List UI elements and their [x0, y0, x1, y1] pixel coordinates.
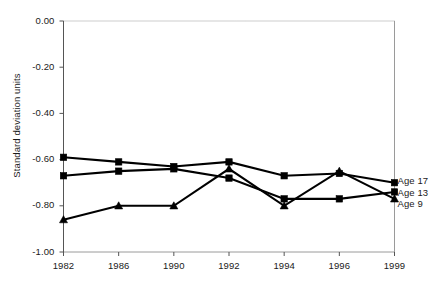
- y-tick-label: -0.20: [17, 61, 55, 72]
- data-point: [60, 173, 66, 179]
- series-label-age-9: Age 9: [398, 198, 423, 209]
- x-tick-label: 1986: [96, 260, 142, 271]
- data-point: [225, 165, 233, 172]
- x-tick-label: 1982: [41, 260, 87, 271]
- x-tick-label: 1990: [151, 260, 197, 271]
- data-point: [336, 196, 342, 202]
- y-tick-label: -0.40: [17, 107, 55, 118]
- data-point: [115, 159, 121, 165]
- series-label-age-17: Age 17: [398, 175, 429, 186]
- y-tick-label: 0.00: [17, 15, 55, 26]
- data-point: [281, 196, 287, 202]
- y-tick-label: -1.00: [17, 246, 55, 257]
- chart-container: Standard deviation units 0.00-0.20-0.40-…: [0, 0, 441, 292]
- data-series-group: [60, 154, 399, 223]
- y-tick-label: -0.80: [17, 199, 55, 210]
- data-point: [115, 168, 121, 174]
- data-point: [226, 159, 232, 165]
- series-age-9: [60, 165, 399, 223]
- y-tick-label: -0.60: [17, 153, 55, 164]
- data-point: [60, 154, 66, 160]
- axis-ticks: [60, 21, 395, 256]
- plot-frame: [64, 21, 395, 252]
- x-tick-label: 1992: [206, 260, 252, 271]
- data-point: [171, 166, 177, 172]
- x-tick-label: 1999: [372, 260, 418, 271]
- chart-plot-area: [0, 0, 441, 292]
- x-tick-label: 1994: [261, 260, 307, 271]
- data-point: [226, 175, 232, 181]
- x-tick-label: 1996: [316, 260, 362, 271]
- series-label-age-13: Age 13: [398, 187, 429, 198]
- data-point: [281, 173, 287, 179]
